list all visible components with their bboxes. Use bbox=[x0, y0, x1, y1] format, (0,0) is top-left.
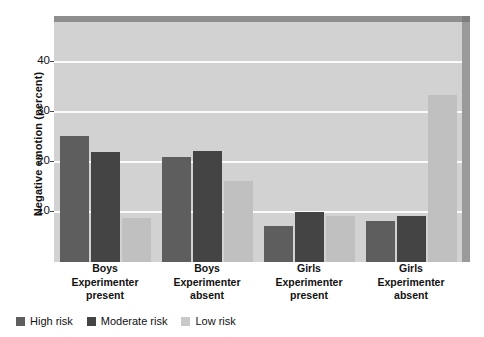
bar-moderate-group-3 bbox=[295, 212, 324, 263]
gridline-30 bbox=[54, 111, 462, 113]
legend-item-3[interactable]: Low risk bbox=[181, 315, 235, 327]
x-label-group-3: GirlsExperimenterpresent bbox=[258, 262, 360, 303]
x-label-group-2: BoysExperimenterabsent bbox=[156, 262, 258, 303]
x-label-group-4: GirlsExperimenterabsent bbox=[360, 262, 462, 303]
x-label-condition-line1: Experimenter bbox=[258, 276, 360, 290]
legend-swatch-icon bbox=[16, 317, 25, 326]
legend-label: Moderate risk bbox=[101, 315, 168, 327]
bar-high-group-2 bbox=[162, 157, 191, 262]
y-tick-label-30: 30 bbox=[26, 104, 50, 116]
legend-swatch-icon bbox=[181, 317, 190, 326]
y-tick-label-20: 20 bbox=[26, 154, 50, 166]
panel-bevel-right bbox=[462, 16, 470, 262]
plot-area bbox=[54, 22, 462, 262]
x-label-gender: Girls bbox=[360, 262, 462, 276]
legend-label: High risk bbox=[30, 315, 73, 327]
x-label-condition-line2: absent bbox=[360, 289, 462, 303]
x-axis-category-labels: BoysExperimenterpresentBoysExperimentera… bbox=[54, 262, 470, 308]
bar-low-group-3 bbox=[326, 216, 355, 262]
x-label-gender: Girls bbox=[258, 262, 360, 276]
plot-panel bbox=[54, 16, 470, 262]
panel-bevel-corner bbox=[462, 16, 470, 22]
legend-item-1[interactable]: High risk bbox=[16, 315, 73, 327]
legend-swatch-icon bbox=[87, 317, 96, 326]
bar-low-group-2 bbox=[224, 181, 253, 262]
y-axis-ticks: 40302010 bbox=[24, 0, 50, 337]
bar-moderate-group-4 bbox=[397, 216, 426, 262]
legend-label: Low risk bbox=[195, 315, 235, 327]
x-label-condition-line2: absent bbox=[156, 289, 258, 303]
bar-high-group-4 bbox=[366, 221, 395, 262]
bar-low-group-1 bbox=[122, 218, 151, 262]
x-label-condition-line1: Experimenter bbox=[360, 276, 462, 290]
y-tick-label-10: 10 bbox=[26, 204, 50, 216]
x-label-condition-line1: Experimenter bbox=[54, 276, 156, 290]
x-label-condition-line2: present bbox=[54, 289, 156, 303]
x-label-gender: Boys bbox=[54, 262, 156, 276]
bar-moderate-group-2 bbox=[193, 151, 222, 262]
x-label-group-1: BoysExperimenterpresent bbox=[54, 262, 156, 303]
bar-high-group-3 bbox=[264, 226, 293, 262]
legend-item-2[interactable]: Moderate risk bbox=[87, 315, 168, 327]
bar-high-group-1 bbox=[60, 136, 89, 262]
bar-moderate-group-1 bbox=[91, 152, 120, 262]
y-tick-label-40: 40 bbox=[26, 54, 50, 66]
x-label-condition-line1: Experimenter bbox=[156, 276, 258, 290]
bar-chart-figure: Negative emotion (percent) 40302010 Boys… bbox=[0, 0, 484, 337]
chart-legend: High riskModerate riskLow risk bbox=[16, 311, 476, 331]
gridline-40 bbox=[54, 61, 462, 63]
x-label-condition-line2: present bbox=[258, 289, 360, 303]
x-label-gender: Boys bbox=[156, 262, 258, 276]
bar-low-group-4 bbox=[428, 95, 457, 263]
